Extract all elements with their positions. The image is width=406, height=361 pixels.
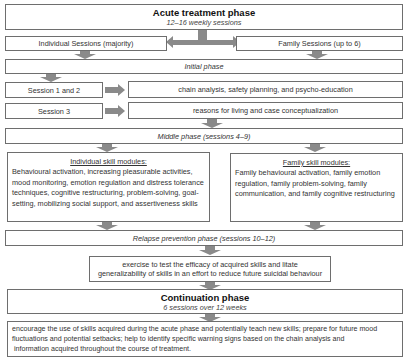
family-sessions-box: Family Sessions (up to 6) <box>236 36 403 51</box>
continuation-phase-subtitle: 6 sessions over 12 weeks <box>163 303 247 312</box>
acute-phase-box: Acute treatment phase 12–16 weekly sessi… <box>5 4 403 30</box>
individual-skill-modules-text: Behavioural activation, increasing pleas… <box>12 167 205 209</box>
continuation-phase-title: Continuation phase <box>161 292 250 303</box>
session-1-2-content: chain analysis, safety planning, and psy… <box>178 85 352 94</box>
middle-phase-label: Middle phase (sessions 4–9) <box>158 132 251 141</box>
initial-phase-box: Initial phase <box>5 59 403 74</box>
individual-skill-modules-box: Individual skill modules: Behavioural ac… <box>7 152 210 222</box>
individual-sessions-box: Individual Sessions (majority) <box>5 36 167 51</box>
family-skill-modules-text: Family behavioural activation, family em… <box>235 168 398 200</box>
individual-skill-modules-heading: Individual skill modules: <box>70 157 147 166</box>
relapse-prevention-label: Relapse prevention phase (sessions 10–12… <box>133 234 275 243</box>
middle-phase-box: Middle phase (sessions 4–9) <box>5 128 403 144</box>
acute-phase-subtitle: 12–16 weekly sessions <box>166 18 241 27</box>
session-1-2-box: Session 1 and 2 <box>5 82 103 98</box>
session-3-label: Session 3 <box>38 107 70 116</box>
individual-sessions-label: Individual Sessions (majority) <box>39 39 134 48</box>
session-1-2-content-box: chain analysis, safety planning, and psy… <box>128 81 403 98</box>
relapse-prevention-box: Relapse prevention phase (sessions 10–12… <box>5 230 403 246</box>
relapse-content-box: exercise to test the efficacy of acquire… <box>89 256 331 282</box>
continuation-content-line-3: information acquired throughout the cour… <box>12 344 191 354</box>
family-skill-modules-heading: Family skill modules: <box>283 158 350 167</box>
continuation-content-line-1: encourage the use of skills acquired dur… <box>12 324 377 334</box>
family-sessions-label: Family Sessions (up to 6) <box>278 39 360 48</box>
initial-phase-label: Initial phase <box>185 62 224 71</box>
continuation-content-box: encourage the use of skills acquired dur… <box>7 321 403 357</box>
session-3-content: reasons for living and case conceptualiz… <box>193 106 338 115</box>
relapse-content-line-1: exercise to test the efficacy of acquire… <box>122 260 298 269</box>
family-skill-modules-box: Family skill modules: Family behavioural… <box>230 153 403 222</box>
relapse-content-line-2: generalizability of skills in an effort … <box>98 269 322 278</box>
session-3-content-box: reasons for living and case conceptualiz… <box>128 102 403 119</box>
continuation-phase-box: Continuation phase 6 sessions over 12 we… <box>7 289 403 314</box>
continuation-content-line-2: fluctuations and potential setbacks; hel… <box>12 334 344 344</box>
session-3-box: Session 3 <box>5 103 103 119</box>
acute-phase-title: Acute treatment phase <box>153 7 255 18</box>
session-1-2-label: Session 1 and 2 <box>28 86 80 95</box>
